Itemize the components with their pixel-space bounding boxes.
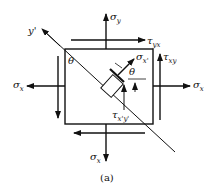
theta-element-label: θ — [129, 66, 135, 77]
sigma-x-prime-label: σx' — [136, 51, 149, 65]
theta-corner-label: θ — [68, 55, 74, 66]
sigma-x-left-label: σx — [13, 79, 24, 93]
y-prime-axis-label: y' — [27, 25, 36, 36]
tau-yx-label: τyx — [147, 35, 161, 49]
tau-xy-label: τxy — [163, 51, 177, 65]
figure-caption: (a) — [100, 172, 114, 183]
sigma-x-bottom-label: σx — [90, 151, 101, 165]
stress-element-diagram: σy τyx τxy σx σx σx σx' τx'y' y' θ θ (a) — [0, 0, 212, 191]
theta-reference-line — [115, 63, 122, 68]
sigma-x-right-label: σx — [193, 79, 204, 93]
sigma-y-label: σy — [110, 11, 122, 25]
y-prime-axis-arrow — [42, 29, 60, 46]
tau-x-prime-y-prime-label: τx'y' — [112, 109, 129, 123]
